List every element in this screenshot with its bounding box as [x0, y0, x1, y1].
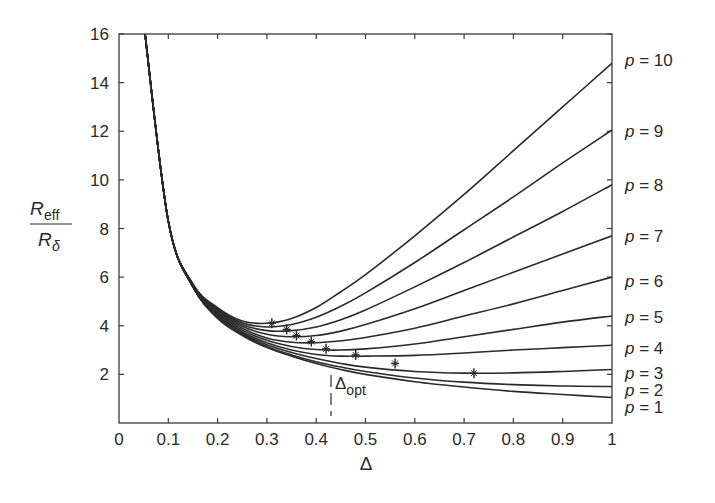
- x-tick-label: 0.5: [354, 430, 378, 449]
- plot-frame: [119, 34, 612, 423]
- x-tick-label: 0.6: [403, 430, 427, 449]
- series-label: p = 5: [624, 308, 663, 327]
- optimum-marker-p-5: [352, 350, 360, 360]
- svg-text:R: R: [38, 229, 52, 250]
- curve-p-9: [144, 22, 612, 327]
- curve-p-5: [144, 22, 612, 350]
- delta-opt-label: Δopt: [335, 374, 366, 398]
- svg-text:R: R: [30, 198, 44, 219]
- curve-p-7: [144, 22, 612, 337]
- y-tick-label: 4: [100, 317, 109, 336]
- y-tick-label: 6: [100, 268, 109, 287]
- series-label: p = 7: [624, 227, 663, 246]
- y-tick-label: 14: [90, 74, 109, 93]
- series-labels: p = 10p = 9p = 8p = 7p = 6p = 5p = 4p = …: [624, 51, 673, 417]
- series-label: p = 1: [624, 398, 663, 417]
- curve-p-2: [144, 22, 612, 387]
- y-tick-label: 2: [100, 365, 109, 384]
- curves-group: [144, 22, 612, 398]
- optimum-marker-p-3: [470, 368, 478, 378]
- x-tick-label: 0.2: [206, 430, 230, 449]
- y-tick-label: 12: [90, 122, 109, 141]
- optimum-marker-p-7: [307, 337, 315, 347]
- series-label: p = 4: [624, 339, 663, 358]
- svg-text:eff: eff: [44, 207, 59, 223]
- y-tick-label: 16: [90, 25, 109, 44]
- x-axis-label: Δ: [360, 453, 373, 474]
- x-tick-label: 0.3: [255, 430, 279, 449]
- optimum-marker-p-4: [391, 358, 399, 368]
- x-tick-label: 0.1: [156, 430, 180, 449]
- x-tick-label: 0: [114, 430, 123, 449]
- svg-text:δ: δ: [52, 238, 60, 254]
- x-tick-label: 0.9: [551, 430, 575, 449]
- curve-p-6: [144, 22, 612, 343]
- optimum-marker-p-8: [292, 330, 300, 340]
- x-tick-label: 1: [607, 430, 616, 449]
- curve-p-10: [144, 22, 612, 324]
- optimum-marker-p-6: [322, 344, 330, 354]
- y-tick-label: 10: [90, 171, 109, 190]
- y-axis-ticks: 246810121416: [90, 25, 612, 384]
- x-tick-label: 0.4: [304, 430, 328, 449]
- y-tick-label: 8: [100, 220, 109, 239]
- y-axis-label: R eff R δ: [30, 198, 72, 254]
- chart: 00.10.20.30.40.50.60.70.80.91 2468101214…: [0, 0, 715, 503]
- series-label: p = 10: [624, 51, 673, 70]
- series-label: p = 8: [624, 176, 663, 195]
- x-tick-label: 0.8: [502, 430, 526, 449]
- series-label: p = 9: [624, 122, 663, 141]
- x-tick-label: 0.7: [452, 430, 476, 449]
- series-label: p = 6: [624, 272, 663, 291]
- curve-p-1: [144, 22, 612, 398]
